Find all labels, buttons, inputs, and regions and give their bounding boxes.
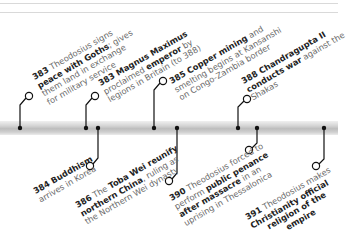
connector-385-copper: [152, 77, 166, 129]
connector-391-christianity: [312, 126, 325, 169]
connector-383-maximus: [84, 92, 98, 129]
connector-383-peace: [18, 92, 32, 129]
connector-388-chandragupta: [236, 95, 250, 129]
